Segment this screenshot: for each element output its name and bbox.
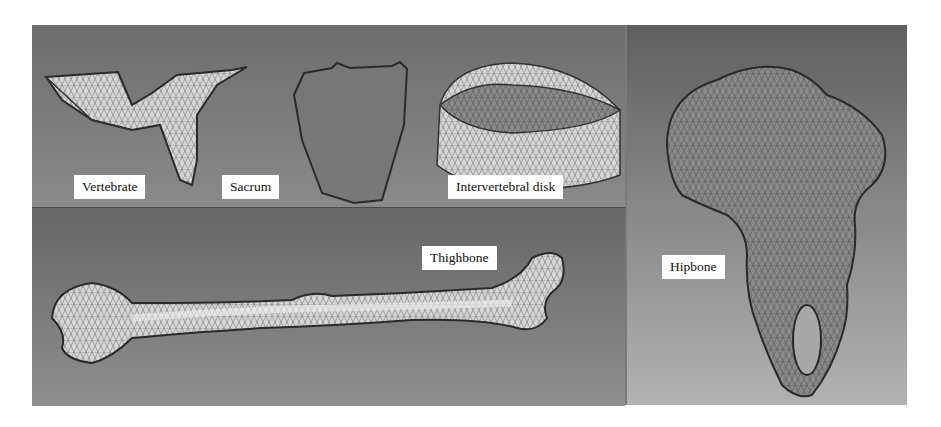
intervertebral-disk-mesh	[437, 63, 620, 190]
panel-thighbone: Thighbone	[32, 207, 625, 406]
panel-spine-parts: Vertebrate Sacrum Intervertebral disk	[32, 25, 625, 207]
sacrum-mesh	[294, 62, 407, 203]
panel-hipbone: Hipbone	[627, 25, 907, 405]
label-intervertebral-disk: Intervertebral disk	[448, 175, 563, 199]
label-vertebrate: Vertebrate	[74, 175, 145, 199]
label-sacrum: Sacrum	[222, 175, 279, 199]
thighbone-mesh	[52, 253, 564, 363]
hipbone-illustration	[627, 25, 907, 405]
bone-mesh-figure: Vertebrate Sacrum Intervertebral disk Th…	[32, 25, 907, 405]
label-thighbone: Thighbone	[422, 246, 497, 270]
hipbone-mesh	[667, 67, 885, 397]
obturator-foramen	[793, 305, 821, 375]
thighbone-illustration	[32, 208, 625, 406]
vertebrate-mesh	[46, 67, 247, 185]
label-hipbone: Hipbone	[662, 255, 725, 279]
